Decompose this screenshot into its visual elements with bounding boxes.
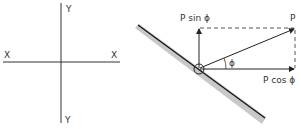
x-right-label: X <box>111 50 117 60</box>
resultant-label: P <box>290 13 296 23</box>
angle-label: ϕ <box>229 58 235 68</box>
xy-axes: Y Y X X <box>3 3 120 125</box>
vertical-component-label: P sin ϕ <box>180 13 210 23</box>
force-vectors <box>194 28 295 74</box>
diagram-canvas: Y Y X X P sin ϕ P ϕ P cos ϕ <box>0 0 301 129</box>
horizontal-component-label: P cos ϕ <box>263 75 295 85</box>
y-bottom-label: Y <box>64 115 71 125</box>
resultant-arrow <box>200 29 294 68</box>
y-top-label: Y <box>65 4 72 14</box>
angle-arc <box>224 58 226 69</box>
x-left-label: X <box>4 50 10 60</box>
beam-edge <box>138 25 265 118</box>
